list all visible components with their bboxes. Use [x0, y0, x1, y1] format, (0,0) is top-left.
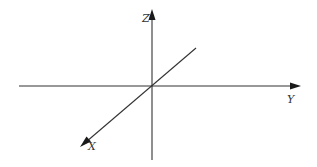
- z-axis-label: Z: [142, 13, 150, 24]
- x-axis: [80, 48, 196, 147]
- y-axis-label: Y: [287, 94, 294, 105]
- z-axis: [149, 9, 156, 160]
- y-axis-arrowhead: [290, 83, 301, 90]
- x-axis-label: X: [88, 141, 96, 152]
- y-axis: [19, 83, 301, 90]
- coordinate-axes-diagram: [0, 0, 317, 167]
